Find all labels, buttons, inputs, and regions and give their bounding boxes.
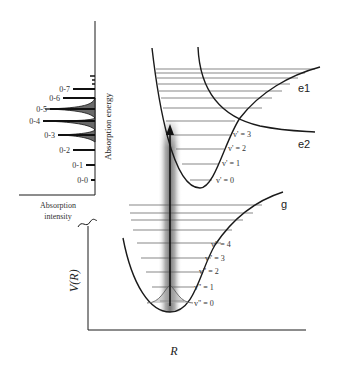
spectrum-transition-label: 0-4 xyxy=(29,117,40,126)
spectrum-transition-label: 0-5 xyxy=(36,105,47,114)
absorption-intensity-label-2: intensity xyxy=(44,212,72,221)
absorption-intensity-label-1: Absorption xyxy=(40,201,76,210)
ground-level-label: v" = 0 xyxy=(194,299,214,308)
excited-level-label: v' = 3 xyxy=(233,130,251,139)
g-label: g xyxy=(281,198,287,210)
spectrum-transition-label: 0-1 xyxy=(72,161,83,170)
spectrum-transition-label: 0-3 xyxy=(44,131,55,140)
ground-potential-curve xyxy=(123,192,283,312)
spectrum-transition-label: 0-7 xyxy=(59,85,70,94)
ground-level-label: v" = 4 xyxy=(211,240,231,249)
spectrum-transition-label: 0-6 xyxy=(49,94,60,103)
axis-break-icon xyxy=(78,219,97,227)
potential-energy-diagram: 0-70-60-50-40-30-20-10-0 Absorption ener… xyxy=(0,0,337,365)
excited-level-label: v' = 2 xyxy=(228,144,246,153)
ground-level-label: v" = 3 xyxy=(205,254,225,263)
excited-level-label: v' = 1 xyxy=(222,159,240,168)
x-axis-label: R xyxy=(169,344,178,358)
ground-level-label: v" = 2 xyxy=(199,267,219,276)
y-axis-label: V(R) xyxy=(67,269,81,292)
absorption-energy-label: Absorption energy xyxy=(103,92,113,160)
ground-level-label: v" = 1 xyxy=(194,283,214,292)
spectrum-transition-label: 0-2 xyxy=(59,146,70,155)
e2-label: e2 xyxy=(298,138,310,150)
spectrum-transition-label: 0-0 xyxy=(77,176,88,185)
e1-label: e1 xyxy=(298,82,310,94)
excited-level-label: v' = 0 xyxy=(216,176,234,185)
